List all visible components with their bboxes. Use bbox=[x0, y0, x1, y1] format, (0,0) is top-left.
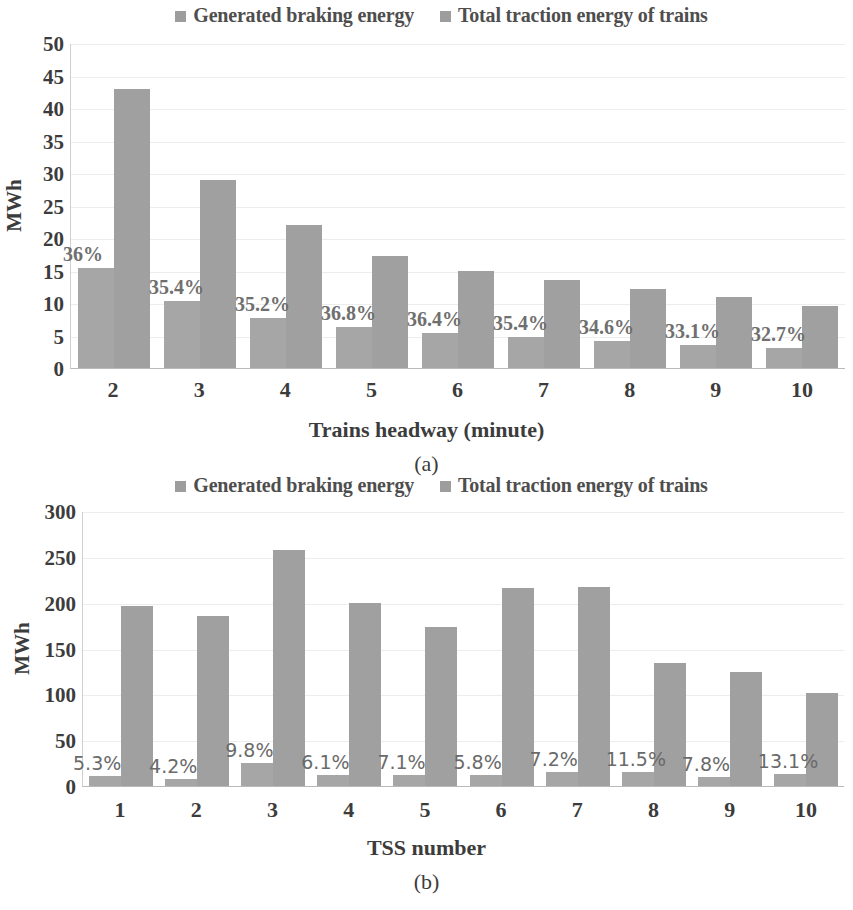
percentage-annotation: 34.6% bbox=[579, 316, 634, 339]
bar-traction-energy[interactable] bbox=[121, 606, 153, 786]
x-axis-tick: 8 bbox=[615, 797, 691, 823]
x-axis-label-b: TSS number bbox=[0, 835, 853, 861]
legend-panel-b: Generated braking energy Total traction … bbox=[0, 470, 853, 500]
bar-braking-energy[interactable] bbox=[393, 775, 425, 786]
bar-traction-energy[interactable] bbox=[654, 663, 686, 786]
bar-braking-energy[interactable] bbox=[78, 268, 114, 368]
legend-swatch-icon bbox=[175, 481, 186, 492]
y-axis-tick: 45 bbox=[43, 64, 64, 89]
x-axis-tick: 7 bbox=[501, 377, 587, 403]
bar-traction-energy[interactable] bbox=[197, 616, 229, 787]
bar-braking-energy[interactable] bbox=[317, 775, 349, 786]
bar-traction-energy[interactable] bbox=[458, 271, 494, 369]
y-axis-tick: 25 bbox=[43, 194, 64, 219]
bar-traction-energy[interactable] bbox=[802, 306, 838, 368]
percentage-annotation: 33.1% bbox=[665, 320, 720, 343]
y-axis-tick: 150 bbox=[45, 637, 77, 662]
y-axis-tick: 200 bbox=[45, 591, 77, 616]
bar-group: 5.3% bbox=[83, 512, 159, 786]
x-axis-tick: 3 bbox=[156, 377, 242, 403]
legend-entry-traction: Total traction energy of trains bbox=[440, 474, 708, 497]
bar-traction-energy[interactable] bbox=[730, 672, 762, 786]
y-axis-tick: 50 bbox=[43, 32, 64, 57]
legend-entry-traction: Total traction energy of trains bbox=[440, 4, 708, 27]
bar-traction-energy[interactable] bbox=[372, 256, 408, 368]
bar-traction-energy[interactable] bbox=[349, 603, 381, 786]
bar-braking-energy[interactable] bbox=[250, 318, 286, 368]
bar-group: 7.8% bbox=[692, 512, 768, 786]
x-axis-label-a: Trains headway (minute) bbox=[0, 417, 853, 443]
bar-braking-energy[interactable] bbox=[336, 327, 372, 368]
y-axis-ticks-b: 050100150200250300 bbox=[20, 512, 82, 787]
bar-braking-energy[interactable] bbox=[774, 774, 806, 786]
bar-traction-energy[interactable] bbox=[425, 627, 457, 786]
bar-traction-energy[interactable] bbox=[273, 550, 305, 787]
bar-braking-energy[interactable] bbox=[241, 763, 273, 786]
x-axis-tick: 8 bbox=[587, 377, 673, 403]
bar-braking-energy[interactable] bbox=[594, 341, 630, 368]
legend-label-braking: Generated braking energy bbox=[193, 474, 414, 497]
bar-braking-energy[interactable] bbox=[470, 775, 502, 786]
bar-traction-energy[interactable] bbox=[716, 297, 752, 368]
bar-braking-energy[interactable] bbox=[422, 333, 458, 368]
bar-group: 9.8% bbox=[235, 512, 311, 786]
bar-group: 32.7% bbox=[759, 44, 845, 368]
bar-traction-energy[interactable] bbox=[286, 225, 322, 368]
bar-group: 4.2% bbox=[159, 512, 235, 786]
bar-traction-energy[interactable] bbox=[578, 587, 610, 786]
legend-swatch-icon bbox=[175, 11, 186, 22]
y-axis-tick: 0 bbox=[54, 357, 65, 382]
x-axis-ticks-a: 2345678910 bbox=[70, 377, 845, 403]
chart-panel-b: Generated braking energy Total traction … bbox=[0, 470, 853, 910]
bar-group: 7.2% bbox=[540, 512, 616, 786]
bar-group: 5.8% bbox=[463, 512, 539, 786]
bar-traction-energy[interactable] bbox=[114, 89, 150, 369]
x-axis-tick: 7 bbox=[539, 797, 615, 823]
legend-label-traction: Total traction energy of trains bbox=[458, 474, 708, 497]
y-axis-tick: 15 bbox=[43, 259, 64, 284]
bar-braking-energy[interactable] bbox=[698, 777, 730, 786]
chart-panel-a: Generated braking energy Total traction … bbox=[0, 0, 853, 470]
x-axis-ticks-b: 12345678910 bbox=[82, 797, 844, 823]
x-axis-tick: 4 bbox=[311, 797, 387, 823]
legend-label-traction: Total traction energy of trains bbox=[458, 4, 708, 27]
bar-traction-energy[interactable] bbox=[544, 280, 580, 368]
bar-braking-energy[interactable] bbox=[165, 779, 197, 786]
legend-entry-braking: Generated braking energy bbox=[175, 4, 414, 27]
y-axis-ticks-a: 05101520253035404550 bbox=[8, 44, 70, 369]
bar-group: 6.1% bbox=[311, 512, 387, 786]
bar-braking-energy[interactable] bbox=[622, 772, 654, 786]
percentage-annotation: 32.7% bbox=[751, 323, 806, 346]
y-axis-tick: 300 bbox=[45, 500, 77, 525]
panel-caption-b: (b) bbox=[0, 869, 853, 895]
y-axis-tick: 35 bbox=[43, 129, 64, 154]
bar-traction-energy[interactable] bbox=[630, 289, 666, 368]
y-axis-tick: 50 bbox=[55, 729, 76, 754]
bar-group: 7.1% bbox=[387, 512, 463, 786]
bar-traction-energy[interactable] bbox=[806, 693, 838, 787]
y-axis-tick: 20 bbox=[43, 227, 64, 252]
x-axis-tick: 10 bbox=[768, 797, 844, 823]
y-axis-tick: 5 bbox=[54, 324, 65, 349]
legend-swatch-icon bbox=[440, 11, 451, 22]
bar-group: 11.5% bbox=[616, 512, 692, 786]
y-axis-tick: 10 bbox=[43, 292, 64, 317]
bar-traction-energy[interactable] bbox=[200, 180, 236, 369]
bar-braking-energy[interactable] bbox=[680, 345, 716, 368]
x-axis-tick: 6 bbox=[463, 797, 539, 823]
x-axis-tick: 5 bbox=[328, 377, 414, 403]
bar-braking-energy[interactable] bbox=[546, 772, 578, 786]
legend-swatch-icon bbox=[440, 481, 451, 492]
bar-group: 34.6% bbox=[587, 44, 673, 368]
bar-traction-energy[interactable] bbox=[502, 588, 534, 786]
x-axis-tick: 5 bbox=[387, 797, 463, 823]
bar-group: 13.1% bbox=[768, 512, 844, 786]
bar-braking-energy[interactable] bbox=[89, 776, 121, 786]
percentage-annotation: 35.2% bbox=[235, 293, 290, 316]
bar-braking-energy[interactable] bbox=[164, 301, 200, 368]
percentage-annotation: 35.4% bbox=[493, 312, 548, 335]
percentage-annotation: 36.8% bbox=[321, 302, 376, 325]
bar-braking-energy[interactable] bbox=[766, 348, 802, 368]
x-axis-tick: 1 bbox=[82, 797, 158, 823]
bar-braking-energy[interactable] bbox=[508, 337, 544, 368]
